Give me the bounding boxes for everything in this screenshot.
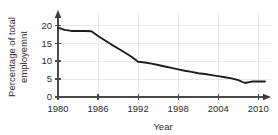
x-tick-label: 2010 [248,103,269,114]
y-axis-title-line1: Percentage of total [6,17,17,97]
x-tick-label: 1992 [128,103,149,114]
chart-canvas: 05101520 198019861992199820042010 Year P… [0,0,278,135]
x-tick-label: 1980 [47,103,68,114]
x-tick-label: 1986 [87,103,108,114]
y-tick-label: 10 [41,55,52,66]
y-tick-label: 20 [41,20,52,31]
y-tick-label: 15 [41,38,52,49]
x-tick-label: 1998 [168,103,189,114]
x-tick-label: 2004 [208,103,229,114]
y-axis-title-line2: employemnt [18,31,29,83]
x-axis-title: Year [153,121,172,132]
y-tick-label: 0 [47,91,52,102]
y-tick-label: 5 [47,73,52,84]
line-chart: 05101520 198019861992199820042010 Year P… [0,0,278,135]
